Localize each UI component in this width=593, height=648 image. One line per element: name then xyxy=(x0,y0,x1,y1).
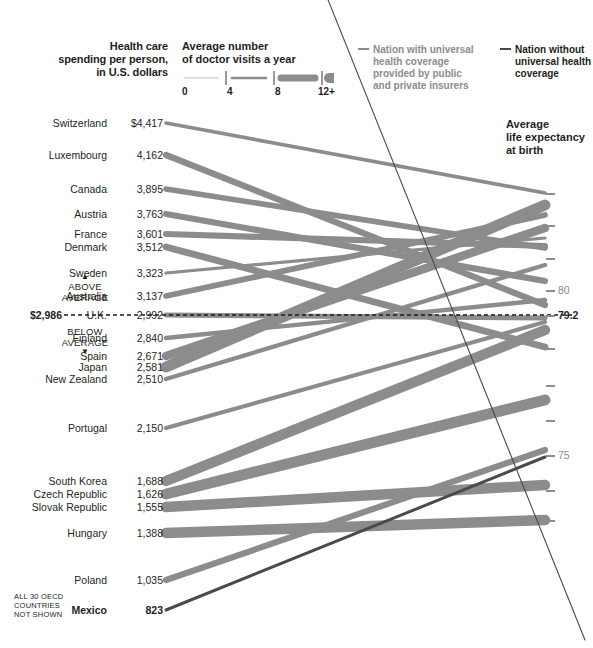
country-name: Switzerland xyxy=(53,117,107,129)
scale-tick-8: 8 xyxy=(275,86,281,97)
axis-tick-mark xyxy=(546,225,555,227)
country-spending-value: 2,840 xyxy=(115,332,163,344)
slope-line-japan[interactable] xyxy=(166,205,545,367)
visits-header-line1: Average number xyxy=(182,40,332,53)
slope-line-australia[interactable] xyxy=(166,215,545,296)
axis-tick-mark xyxy=(546,315,555,317)
slope-line-poland[interactable] xyxy=(166,450,545,580)
country-spending-value: 1,388 xyxy=(115,527,163,539)
legend-no-universal-coverage: Nation without universal health coverage xyxy=(500,44,593,80)
country-name: U.K. xyxy=(87,309,107,321)
footnote-line3: NOT SHOWN xyxy=(14,610,84,619)
slope-line-luxembourg[interactable] xyxy=(166,155,545,305)
spending-header-line1: Health care xyxy=(0,40,168,53)
country-spending-value: 1,688 xyxy=(115,475,163,487)
country-spending-value: 2,992 xyxy=(115,309,163,321)
country-row[interactable]: Luxembourg4,162 xyxy=(0,149,163,161)
country-name: South Korea xyxy=(49,475,107,487)
country-spending-value: 4,162 xyxy=(115,149,163,161)
slope-line-sweden[interactable] xyxy=(166,238,545,273)
slope-line-czech-republic[interactable] xyxy=(166,400,545,494)
country-spending-value: 2,510 xyxy=(115,373,163,385)
country-spending-value: 3,323 xyxy=(115,267,163,279)
country-spending-value: 1,035 xyxy=(115,574,163,586)
average-spending-label: $2,986 xyxy=(0,309,62,321)
legend-universal-line3: provided by public xyxy=(373,68,462,79)
country-row[interactable]: Slovak Republic1,555 xyxy=(0,501,163,513)
country-spending-value: 1,555 xyxy=(115,501,163,513)
country-name: Austria xyxy=(74,208,107,220)
slope-line-united-states[interactable] xyxy=(300,0,585,640)
country-row[interactable]: South Korea1,688 xyxy=(0,475,163,487)
country-row[interactable]: Czech Republic1,626 xyxy=(0,488,163,500)
slopegraph-infographic: Health care spending per person, in U.S.… xyxy=(0,0,593,648)
legend-none-line1: Nation without xyxy=(515,44,584,55)
slope-line-spain[interactable] xyxy=(166,228,545,356)
legend-none-swatch-icon xyxy=(500,48,511,50)
country-row[interactable]: Canada3,895 xyxy=(0,183,163,195)
scale-tick-labels: 0 4 8 12+ xyxy=(182,86,342,100)
legend-universal-swatch-icon xyxy=(358,48,369,50)
scale-tick-0: 0 xyxy=(182,86,188,97)
spending-header: Health care spending per person, in U.S.… xyxy=(0,40,168,79)
below-average-line1: BELOW xyxy=(50,326,120,337)
slope-line-south-korea[interactable] xyxy=(166,330,545,481)
up-triangle-icon: ▲ xyxy=(50,273,120,281)
country-row[interactable]: Switzerland$4,417 xyxy=(0,117,163,129)
visits-header-line2: of doctor visits a year xyxy=(182,53,332,66)
slope-line-finland[interactable] xyxy=(166,300,545,338)
legend-universal-coverage: Nation with universal health coverage pr… xyxy=(358,44,488,92)
scale-tick-12: 12+ xyxy=(318,86,335,97)
legend-none-line3: coverage xyxy=(515,68,559,79)
country-name: Poland xyxy=(74,574,107,586)
above-average-line2: AVERAGE xyxy=(50,292,120,303)
spending-header-line3: in U.S. dollars xyxy=(0,66,168,79)
country-row[interactable]: Hungary1,388 xyxy=(0,527,163,539)
axis-tick-mark xyxy=(546,520,555,522)
country-spending-value: 823 xyxy=(115,604,163,616)
country-row[interactable]: Japan2,581 xyxy=(0,361,163,373)
slope-line-new-zealand[interactable] xyxy=(166,265,545,379)
country-row[interactable]: Denmark3,512 xyxy=(0,241,163,253)
country-name: Hungary xyxy=(67,527,107,539)
country-row[interactable]: Poland1,035 xyxy=(0,574,163,586)
slope-line-denmark[interactable] xyxy=(166,247,545,347)
country-name: Denmark xyxy=(64,241,107,253)
country-row[interactable]: Portugal2,150 xyxy=(0,422,163,434)
country-spending-value: 3,137 xyxy=(115,290,163,302)
axis-tick-label: 75 xyxy=(558,450,570,461)
country-spending-value: $4,417 xyxy=(115,117,163,129)
slope-line-canada[interactable] xyxy=(166,189,545,248)
axis-tick-label: 80 xyxy=(558,285,570,296)
slope-line-switzerland[interactable] xyxy=(166,123,545,193)
country-row[interactable]: Austria3,763 xyxy=(0,208,163,220)
country-spending-value: 1,626 xyxy=(115,488,163,500)
country-spending-value: 3,763 xyxy=(115,208,163,220)
legend-universal-line4: and private insurers xyxy=(373,80,469,91)
country-row[interactable]: New Zealand2,510 xyxy=(0,373,163,385)
country-spending-value: 3,512 xyxy=(115,241,163,253)
above-average-annotation: ▲ ABOVE AVERAGE xyxy=(50,273,120,303)
life-expectancy-header: Average life expectancy at birth xyxy=(506,118,592,157)
axis-tick-mark xyxy=(546,385,555,387)
axis-tick-mark xyxy=(546,490,555,492)
doctor-visits-header: Average number of doctor visits a year xyxy=(182,40,332,66)
country-name: Czech Republic xyxy=(33,488,107,500)
slope-line-u-k-[interactable] xyxy=(166,315,545,318)
country-row[interactable]: France3,601 xyxy=(0,228,163,240)
country-spending-value: 3,601 xyxy=(115,228,163,240)
slope-line-hungary[interactable] xyxy=(166,520,545,533)
spending-header-line2: spending per person, xyxy=(0,53,168,66)
axis-tick-mark xyxy=(546,455,555,457)
slope-line-slovak-republic[interactable] xyxy=(166,485,545,507)
axis-tick-mark xyxy=(546,193,555,195)
slope-line-france[interactable] xyxy=(166,234,545,246)
down-triangle-icon: ▼ xyxy=(50,348,120,356)
legend-none-line2: universal health xyxy=(515,56,591,67)
slope-line-portugal[interactable] xyxy=(166,322,545,428)
slope-line-mexico[interactable] xyxy=(166,457,545,610)
slope-line-austria[interactable] xyxy=(166,214,545,281)
legend-universal-line2: health coverage xyxy=(373,56,449,67)
footnote-line2: COUNTRIES xyxy=(14,601,84,610)
country-name: Luxembourg xyxy=(49,149,107,161)
